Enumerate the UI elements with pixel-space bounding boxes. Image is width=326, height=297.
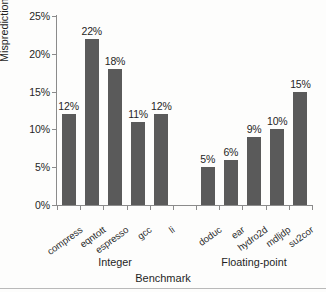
bar-value-label: 12% — [58, 100, 78, 112]
bar: 12% — [154, 114, 168, 205]
y-axis-tick-label: 20% — [29, 48, 50, 60]
x-axis-tick-label: mdljdp — [264, 224, 293, 249]
x-axis-tick — [127, 205, 128, 210]
bar-value-label: 11% — [128, 108, 148, 120]
y-axis-tick-label: 25% — [29, 10, 50, 22]
bar-value-label: 5% — [200, 153, 215, 165]
y-axis-tick-label: 0% — [35, 199, 50, 211]
x-axis-tick-label: gcc — [135, 224, 153, 242]
bar-value-label: 10% — [267, 115, 287, 127]
bar-value-label: 18% — [105, 55, 125, 67]
bar-value-label: 12% — [151, 100, 171, 112]
x-axis-tick — [150, 205, 151, 210]
group-label-integer: Integer — [98, 256, 132, 268]
x-axis-tick — [196, 205, 197, 210]
x-axis-title: Benchmark — [0, 272, 326, 284]
x-axis-tick — [57, 205, 58, 210]
y-axis-tick — [52, 167, 57, 168]
y-axis-tick-label: 15% — [29, 86, 50, 98]
bar: 6% — [224, 160, 238, 205]
x-axis-tick-label: li — [167, 224, 177, 235]
bar: 22% — [85, 39, 99, 205]
x-axis-tick — [289, 205, 290, 210]
bar: 18% — [108, 69, 122, 205]
y-axis-title: Misprediction rate — [0, 0, 10, 62]
x-axis-tick-label: su2cor — [287, 224, 316, 249]
bar-chart-figure: Misprediction rate 0%5%10%15%20%25%12%co… — [0, 0, 326, 297]
bar-value-label: 15% — [290, 78, 310, 90]
y-axis-tick-label: 10% — [29, 123, 50, 135]
y-axis-tick — [52, 16, 57, 17]
bar: 10% — [270, 129, 284, 205]
bar-value-label: 9% — [247, 123, 262, 135]
x-axis-tick-label: doduc — [196, 224, 223, 248]
scan-page-edge — [0, 288, 326, 289]
x-axis-tick — [80, 205, 81, 210]
plot-area: 0%5%10%15%20%25%12%compress22%eqntott18%… — [57, 16, 312, 205]
x-axis-tick — [242, 205, 243, 210]
bar: 11% — [131, 122, 145, 205]
y-axis-tick — [52, 54, 57, 55]
bar: 9% — [247, 137, 261, 205]
bar: 5% — [201, 167, 215, 205]
y-axis-tick-label: 5% — [35, 161, 50, 173]
bar-value-label: 22% — [82, 25, 102, 37]
y-axis-tick — [52, 92, 57, 93]
x-axis-tick — [266, 205, 267, 210]
x-axis-tick — [103, 205, 104, 210]
bar-value-label: 6% — [223, 146, 238, 158]
bar: 12% — [62, 114, 76, 205]
scan-page-margin — [0, 292, 326, 297]
bar: 15% — [293, 92, 307, 205]
x-axis-tick — [312, 205, 313, 210]
y-axis-tick — [52, 129, 57, 130]
group-label-floating-point: Floating-point — [221, 256, 286, 268]
x-axis-line — [56, 205, 313, 206]
x-axis-tick — [219, 205, 220, 210]
x-axis-tick — [173, 205, 174, 210]
